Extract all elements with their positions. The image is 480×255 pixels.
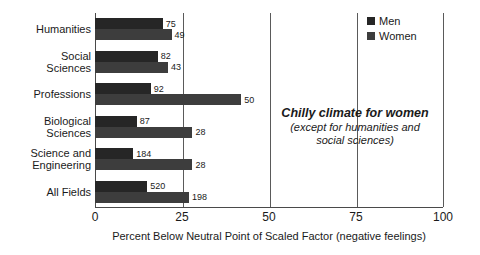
category-label-line: Humanities — [36, 23, 91, 35]
category-label-all-fields: All Fields — [0, 176, 91, 209]
bar-men-professions — [95, 83, 151, 94]
annotation-line-2: (except for humanities and — [258, 121, 452, 134]
bar-value-women-biological-sciences: 28 — [192, 128, 205, 137]
bar-men-all-fields-wrap: 520 — [95, 181, 443, 192]
bar-women-science-and-engineering — [95, 159, 192, 170]
bar-women-all-fields — [95, 192, 189, 203]
legend-label-men: Men — [379, 15, 400, 27]
category-label-line: Science and — [30, 147, 91, 159]
x-tick-0: 0 — [92, 210, 99, 224]
category-label-humanities: Humanities — [0, 13, 91, 46]
bar-value-women-science-and-engineering: 28 — [192, 160, 205, 169]
category-label-line: All Fields — [46, 186, 91, 198]
bar-women-professions — [95, 94, 241, 105]
bar-women-science-and-engineering-wrap: 28 — [95, 159, 443, 170]
bar-men-social-sciences-wrap: 82 — [95, 51, 443, 62]
bar-group-all-fields: 520 198 — [95, 176, 443, 209]
annotation-line-1: Chilly climate for women — [258, 106, 452, 121]
x-tick-50: 50 — [262, 210, 275, 224]
x-axis-title: Percent Below Neutral Point of Scaled Fa… — [95, 230, 443, 243]
bar-women-biological-sciences — [95, 127, 192, 138]
x-tick-75: 75 — [349, 210, 362, 224]
bar-women-humanities — [95, 29, 172, 40]
category-label-biological-sciences: Biological Sciences — [0, 111, 91, 144]
bar-men-science-and-engineering — [95, 148, 133, 159]
legend-label-women: Women — [379, 30, 417, 42]
bar-women-professions-wrap: 50 — [95, 94, 443, 105]
bar-value-women-humanities: 49 — [172, 30, 185, 39]
chart-legend: Men Women — [367, 14, 417, 44]
bar-men-all-fields — [95, 181, 147, 192]
bar-men-science-and-engineering-wrap: 184 — [95, 148, 443, 159]
category-label-professions: Professions — [0, 78, 91, 111]
category-label-line: Engineering — [32, 159, 91, 171]
bar-men-professions-wrap: 92 — [95, 83, 443, 94]
bar-men-biological-sciences — [95, 116, 137, 127]
bar-value-women-all-fields: 198 — [189, 193, 207, 202]
bar-value-men-professions: 92 — [151, 84, 164, 93]
bar-women-all-fields-wrap: 198 — [95, 192, 443, 203]
category-axis-labels: Humanities Social Sciences Professions B… — [0, 13, 91, 208]
category-label-social-sciences: Social Sciences — [0, 46, 91, 79]
legend-swatch-women-icon — [367, 32, 375, 40]
bar-value-women-social-sciences: 43 — [168, 63, 181, 72]
bar-women-social-sciences-wrap: 43 — [95, 62, 443, 73]
legend-item-men: Men — [367, 14, 417, 28]
bar-value-women-professions: 50 — [241, 95, 254, 104]
category-label-line: Professions — [34, 88, 91, 100]
x-tick-100: 100 — [433, 210, 453, 224]
bar-men-social-sciences — [95, 51, 158, 62]
chart-annotation: Chilly climate for women (except for hum… — [258, 106, 452, 147]
bar-group-science-and-engineering: 184 28 — [95, 143, 443, 176]
legend-item-women: Women — [367, 29, 417, 43]
x-tick-25: 25 — [175, 210, 188, 224]
category-label-line: Biological — [44, 115, 91, 127]
bar-group-social-sciences: 82 43 — [95, 46, 443, 79]
bar-value-men-biological-sciences: 87 — [137, 117, 150, 126]
bar-value-men-humanities: 75 — [163, 19, 176, 28]
category-label-line: Social — [61, 50, 91, 62]
annotation-line-3: social sciences) — [258, 134, 452, 147]
category-label-science-and-engineering: Science and Engineering — [0, 143, 91, 176]
bar-value-men-all-fields: 520 — [147, 182, 165, 191]
bar-men-humanities — [95, 18, 163, 29]
bar-chart-figure: Humanities Social Sciences Professions B… — [0, 0, 480, 255]
legend-swatch-men-icon — [367, 17, 375, 25]
bar-women-social-sciences — [95, 62, 168, 73]
bar-value-men-social-sciences: 82 — [158, 52, 171, 61]
category-label-line: Sciences — [46, 62, 91, 74]
category-label-line: Sciences — [46, 127, 91, 139]
x-axis-ticks: 0 25 50 75 100 — [0, 210, 480, 226]
bar-value-men-science-and-engineering: 184 — [133, 149, 151, 158]
